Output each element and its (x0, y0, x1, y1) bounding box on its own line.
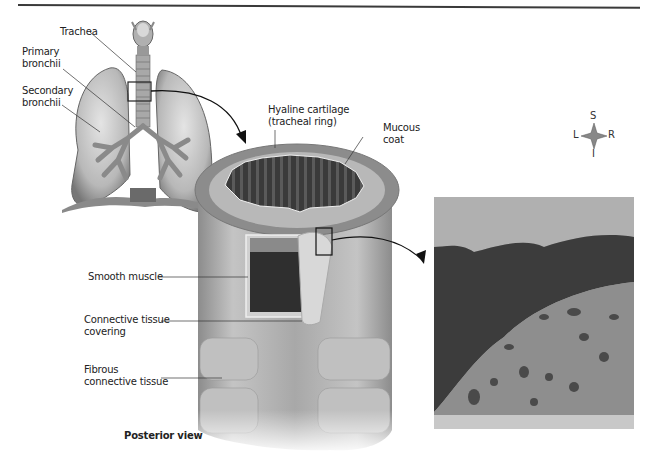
label-connective-tissue-covering: Connective tissue covering (84, 314, 170, 338)
label-mucous-coat: Mucous coat (383, 122, 420, 146)
label-secondary-bronchii: Secondary bronchii (22, 85, 73, 109)
label-primary-bronchii: Primary bronchii (22, 46, 61, 70)
orientation-inferior: I (592, 148, 595, 159)
orientation-right: R (608, 129, 615, 140)
orientation-left: L (573, 129, 579, 140)
view-caption: Posterior view (124, 430, 203, 442)
label-fibrous-connective-tissue: Fibrous connective tissue (84, 364, 168, 388)
label-trachea: Trachea (60, 26, 98, 38)
trachea-cutaway (195, 144, 399, 455)
label-hyaline-cartilage: Hyaline cartilage (tracheal ring) (268, 104, 349, 128)
micrograph-image (434, 197, 634, 429)
label-smooth-muscle: Smooth muscle (88, 271, 163, 283)
orientation-superior: S (590, 110, 596, 121)
compass-star-icon (581, 123, 607, 149)
orientation-compass: S L R I (574, 111, 614, 161)
